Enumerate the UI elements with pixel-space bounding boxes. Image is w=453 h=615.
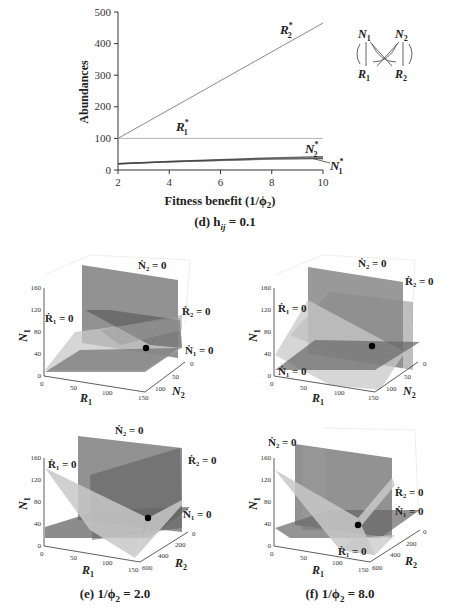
svg-text:R2: R2 bbox=[174, 556, 187, 572]
label-R1: R*1 bbox=[175, 118, 189, 137]
nullcline-label: Ṅ₁ = 0 bbox=[395, 505, 424, 517]
svg-text:R1: R1 bbox=[357, 67, 370, 83]
nullcline-label: Ṙ₂ = 0 bbox=[182, 305, 211, 317]
svg-text:N1: N1 bbox=[357, 27, 371, 43]
caption-panel-f: (f) 1/ϕ2 = 8.0 bbox=[245, 586, 435, 604]
svg-text:0: 0 bbox=[190, 360, 194, 368]
svg-text:80: 80 bbox=[264, 498, 272, 506]
caption-panel-d: (d) hij = 0.1 bbox=[100, 214, 350, 232]
svg-text:150: 150 bbox=[368, 394, 379, 402]
svg-text:R1: R1 bbox=[311, 563, 324, 579]
svg-text:0: 0 bbox=[268, 542, 272, 550]
svg-text:600: 600 bbox=[142, 564, 153, 572]
svg-text:600: 600 bbox=[372, 564, 383, 572]
svg-text:150: 150 bbox=[358, 566, 369, 574]
svg-text:N2: N2 bbox=[171, 384, 185, 400]
label-N2: N*2 bbox=[304, 140, 318, 159]
svg-text:R1: R1 bbox=[79, 391, 92, 407]
svg-text:120: 120 bbox=[261, 476, 272, 484]
svg-text:100: 100 bbox=[95, 132, 112, 144]
svg-text:R2: R2 bbox=[404, 554, 417, 570]
caption-panel-e: (e) 1/ϕ2 = 2.0 bbox=[20, 586, 210, 604]
svg-text:40: 40 bbox=[264, 520, 272, 528]
svg-text:120: 120 bbox=[261, 306, 272, 314]
svg-text:N1: N1 bbox=[246, 497, 262, 511]
svg-text:160: 160 bbox=[31, 284, 42, 292]
svg-text:N1: N1 bbox=[16, 497, 32, 511]
svg-text:160: 160 bbox=[261, 284, 272, 292]
svg-text:0: 0 bbox=[270, 550, 274, 558]
svg-text:0: 0 bbox=[192, 530, 196, 538]
nullcline-label: Ṙ₂ = 0 bbox=[405, 275, 434, 287]
nullcline-label: Ṙ₁ = 0 bbox=[278, 302, 307, 314]
svg-text:400: 400 bbox=[95, 37, 112, 49]
nullcline-label: Ṙ₂ = 0 bbox=[395, 486, 424, 498]
svg-text:R2: R2 bbox=[394, 67, 407, 83]
svg-text:0: 0 bbox=[270, 380, 274, 388]
svg-text:400: 400 bbox=[390, 551, 401, 559]
svg-text:80: 80 bbox=[34, 498, 42, 506]
abundance-line-chart: 0 100 200 300 400 500 2 4 6 8 10 Abundan… bbox=[0, 0, 453, 230]
nullcline-label: Ṙ₁ = 0 bbox=[338, 545, 367, 557]
nullcline-label: Ṙ₂ = 0 bbox=[188, 454, 217, 466]
nullcline-label: Ṅ₂ = 0 bbox=[115, 424, 144, 436]
svg-text:100: 100 bbox=[102, 559, 113, 567]
equilibrium-point bbox=[355, 522, 361, 528]
svg-text:200: 200 bbox=[95, 100, 112, 112]
svg-text:0: 0 bbox=[423, 528, 427, 536]
svg-text:N2: N2 bbox=[402, 384, 416, 400]
svg-text:50: 50 bbox=[300, 554, 308, 562]
svg-text:50: 50 bbox=[70, 554, 78, 562]
svg-text:8: 8 bbox=[269, 176, 275, 188]
svg-text:50: 50 bbox=[404, 373, 412, 381]
phase-plane-3d-top-left: 0 40 80 120 160 0 50 100 150 0 50 100 R1… bbox=[0, 230, 230, 410]
interaction-diagram: N1 N2 R1 R2 bbox=[357, 27, 412, 83]
nullcline-label: Ṅ₁ = 0 bbox=[183, 508, 212, 520]
phase-plane-3d-bottom-left: 0 40 80 120 160 0 50 100 150 0 200 400 6… bbox=[0, 410, 230, 580]
svg-text:150: 150 bbox=[138, 394, 149, 402]
svg-text:120: 120 bbox=[31, 306, 42, 314]
svg-text:0: 0 bbox=[38, 542, 42, 550]
y-tick-labels: 0 100 200 300 400 500 bbox=[95, 6, 112, 176]
svg-text:120: 120 bbox=[31, 476, 42, 484]
svg-text:40: 40 bbox=[34, 350, 42, 358]
nullcline-label: Ṅ₂ = 0 bbox=[358, 257, 387, 269]
nullcline-label: Ṅ₁ = 0 bbox=[185, 344, 214, 356]
phase-plane-3d-top-right: 0 40 80 120 160 0 50 100 150 0 50 100 R1… bbox=[230, 230, 453, 410]
svg-text:400: 400 bbox=[158, 552, 169, 560]
svg-text:100: 100 bbox=[332, 559, 343, 567]
svg-text:4: 4 bbox=[167, 176, 173, 188]
svg-text:6: 6 bbox=[218, 176, 224, 188]
svg-text:100: 100 bbox=[334, 389, 345, 397]
nullcline-label: Ṙ₁ = 0 bbox=[48, 458, 77, 470]
svg-text:300: 300 bbox=[95, 69, 112, 81]
svg-text:200: 200 bbox=[406, 540, 417, 548]
series-R2-line bbox=[118, 23, 323, 138]
svg-text:R1: R1 bbox=[81, 563, 94, 579]
svg-text:100: 100 bbox=[155, 385, 166, 393]
nullcline-label: Ṅ₁ = 0 bbox=[278, 365, 307, 377]
svg-text:40: 40 bbox=[264, 350, 272, 358]
svg-text:50: 50 bbox=[300, 384, 308, 392]
svg-text:0: 0 bbox=[40, 550, 44, 558]
nullcline-label: Ṙ₁ = 0 bbox=[45, 312, 74, 324]
svg-text:500: 500 bbox=[95, 6, 112, 18]
svg-text:0: 0 bbox=[106, 164, 112, 176]
svg-text:R1: R1 bbox=[311, 391, 324, 407]
svg-text:N1: N1 bbox=[16, 329, 32, 343]
y-axis-label: Abundances bbox=[77, 60, 91, 124]
svg-text:N2: N2 bbox=[394, 27, 408, 43]
svg-text:80: 80 bbox=[264, 328, 272, 336]
svg-text:50: 50 bbox=[172, 373, 180, 381]
svg-text:100: 100 bbox=[102, 389, 113, 397]
svg-text:200: 200 bbox=[175, 541, 186, 549]
x-axis-label: Fitness benefit (1/ϕ2) bbox=[165, 194, 276, 210]
label-R2: R*2 bbox=[279, 21, 293, 40]
equilibrium-point bbox=[369, 343, 375, 349]
svg-text:50: 50 bbox=[70, 384, 78, 392]
svg-text:0: 0 bbox=[38, 372, 42, 380]
svg-text:N1: N1 bbox=[246, 329, 262, 343]
equilibrium-point bbox=[145, 515, 151, 521]
phase-plane-3d-bottom-right: 0 40 80 120 160 0 50 100 150 0 200 400 6… bbox=[230, 410, 453, 580]
label-N1: N*1 bbox=[329, 157, 343, 176]
